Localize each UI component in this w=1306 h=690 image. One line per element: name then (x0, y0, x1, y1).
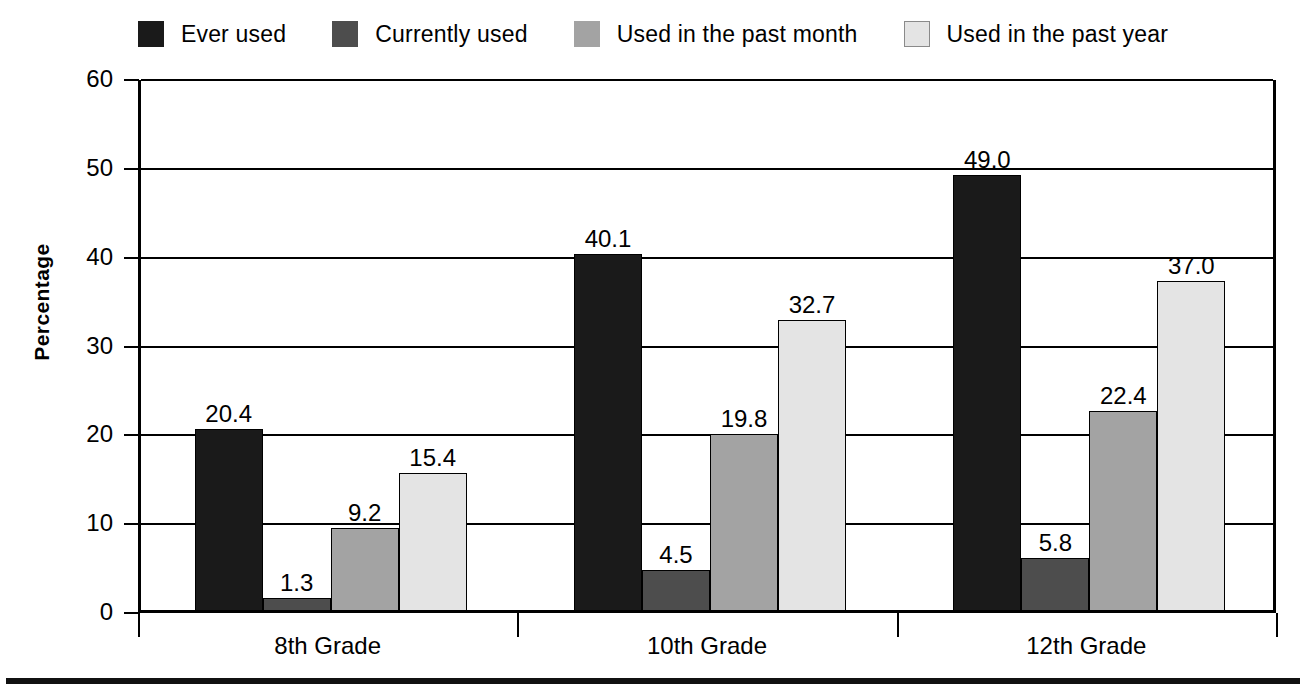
bar[interactable]: 1.3 (263, 598, 331, 610)
bar-value-label: 20.4 (205, 401, 252, 427)
bar-group-1: 20.41.39.215.4 (141, 80, 520, 610)
bar[interactable]: 9.2 (331, 528, 399, 610)
bar-value-label: 40.1 (585, 226, 632, 252)
y-tick-mark-50 (124, 168, 139, 170)
bar-value-label: 5.8 (1039, 530, 1072, 556)
bar[interactable]: 5.8 (1021, 558, 1089, 610)
bar[interactable]: 32.7 (778, 320, 846, 610)
bar[interactable]: 40.1 (574, 254, 642, 610)
x-axis-separator-3 (897, 613, 899, 637)
bar-value-label: 15.4 (409, 445, 456, 471)
y-tick-label-30: 30 (41, 333, 113, 359)
bottom-rule (6, 678, 1300, 684)
bar[interactable]: 49.0 (953, 175, 1021, 610)
y-tick-mark-40 (124, 257, 139, 259)
y-tick-mark-60 (124, 79, 139, 81)
plot-area: 0102030405060 20.41.39.215.440.14.519.83… (138, 80, 1276, 613)
y-tick-label-40: 40 (41, 244, 113, 270)
x-axis-separator-end (1276, 613, 1278, 637)
y-tick-label-20: 20 (41, 421, 113, 447)
bar[interactable]: 20.4 (195, 429, 263, 610)
bar[interactable]: 22.4 (1089, 411, 1157, 610)
y-tick-mark-10 (124, 523, 139, 525)
y-tick-label-50: 50 (41, 155, 113, 181)
x-axis-separator-2 (517, 613, 519, 637)
y-tick-mark-0 (124, 612, 139, 614)
bar-value-label: 37.0 (1168, 253, 1215, 279)
plot-wrapper: Percentage 0102030405060 20.41.39.215.44… (0, 0, 1306, 690)
bar[interactable]: 15.4 (399, 473, 467, 610)
y-axis-title: Percentage (30, 212, 54, 392)
x-axis-label-3: 12th Grade (897, 632, 1276, 660)
bar-group-3: 49.05.822.437.0 (900, 80, 1279, 610)
bar-value-label: 4.5 (659, 542, 692, 568)
bar-chart-figure: Ever used Currently used Used in the pas… (0, 0, 1306, 690)
y-tick-mark-20 (124, 434, 139, 436)
bar[interactable]: 37.0 (1157, 281, 1225, 610)
y-tick-mark-30 (124, 346, 139, 348)
bar-value-label: 49.0 (964, 147, 1011, 173)
bar-value-label: 9.2 (348, 500, 381, 526)
y-tick-label-0: 0 (41, 599, 113, 625)
bar-value-label: 22.4 (1100, 383, 1147, 409)
y-tick-label-10: 10 (41, 510, 113, 536)
bar[interactable]: 4.5 (642, 570, 710, 610)
bar-value-label: 32.7 (789, 292, 836, 318)
bar[interactable]: 19.8 (710, 434, 778, 610)
x-axis-label-2: 10th Grade (517, 632, 896, 660)
x-axis-label-1: 8th Grade (138, 632, 517, 660)
y-tick-label-60: 60 (41, 66, 113, 92)
bar-value-label: 1.3 (280, 570, 313, 596)
bar-group-2: 40.14.519.832.7 (520, 80, 899, 610)
x-axis-separator-1 (138, 613, 140, 637)
bar-value-label: 19.8 (721, 406, 768, 432)
